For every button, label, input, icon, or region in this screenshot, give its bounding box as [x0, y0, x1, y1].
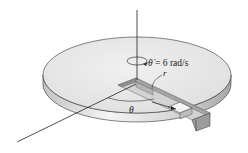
angular-velocity-label: θ̇ = 6 rad/s: [148, 58, 189, 68]
theta-label: θ: [129, 105, 134, 115]
radius-label: r: [163, 68, 167, 78]
rotating-disk-diagram: θ̇ = 6 rad/s r θ: [0, 0, 248, 153]
